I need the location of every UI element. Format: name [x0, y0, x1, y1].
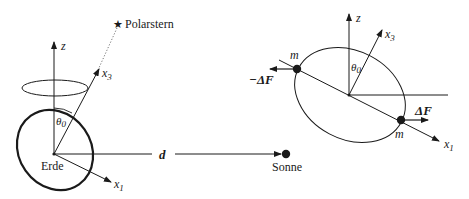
theta-label-left: θ0	[56, 115, 66, 129]
x3-label-left: x3	[101, 66, 112, 82]
sun-dot	[282, 150, 290, 158]
right-diagram: z x3 θ0 x1 m −ΔF m ΔF	[249, 11, 454, 161]
z-label-right: z	[355, 11, 361, 25]
force-neg-label: −ΔF	[249, 72, 274, 87]
sun-label: Sonne	[272, 160, 302, 174]
star-icon: ★	[113, 18, 123, 30]
theta-label-right: θ0	[351, 61, 361, 75]
earth-label: Erde	[41, 159, 64, 173]
x1-label-left: x1	[113, 177, 124, 193]
force-pos-label: ΔF	[414, 103, 432, 118]
mass-bottom-label: m	[395, 127, 404, 141]
x1-label-right: x1	[443, 137, 454, 153]
polarstern-label: Polarstern	[125, 17, 174, 31]
precession-ellipse	[22, 80, 88, 96]
mass-top-label: m	[290, 48, 299, 62]
left-diagram: ★ Polarstern z x3 θ0 Erde x1 d Sonne	[1, 17, 302, 199]
diagram-canvas: ★ Polarstern z x3 θ0 Erde x1 d Sonne	[0, 0, 469, 199]
physics-diagram: ★ Polarstern z x3 θ0 Erde x1 d Sonne	[0, 0, 469, 199]
earth-ellipse	[1, 95, 108, 199]
polarstern-dotted-line	[98, 28, 117, 70]
z-label-left: z	[60, 39, 66, 53]
distance-label: d	[159, 147, 166, 162]
ring-center	[348, 94, 351, 97]
x3-label-right: x3	[384, 27, 395, 43]
